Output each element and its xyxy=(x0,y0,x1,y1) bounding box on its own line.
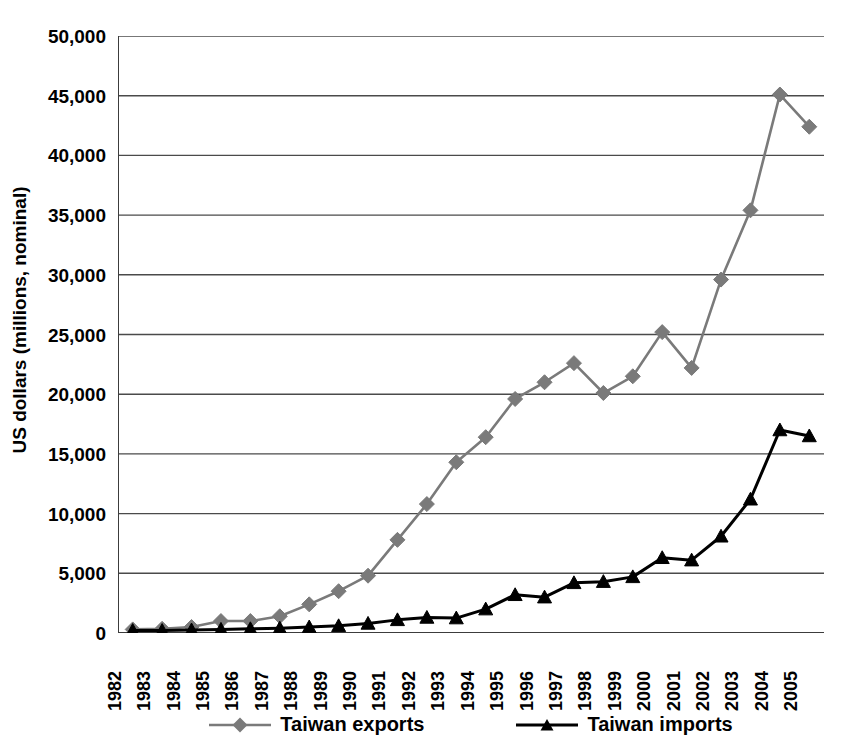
y-axis-tick-label: 10,000 xyxy=(28,504,106,523)
data-series-layer xyxy=(125,87,817,633)
x-axis-tick-label: 1995 xyxy=(488,641,506,711)
y-axis-tick-label: 35,000 xyxy=(28,206,106,225)
data-point-marker xyxy=(537,375,552,390)
x-axis-tick-label: 1994 xyxy=(459,641,477,711)
chart-figure: US dollars (millions, nominal) 05,00010,… xyxy=(0,0,846,743)
x-axis-tick-label: 1998 xyxy=(576,641,594,711)
x-axis-tick-label: 1984 xyxy=(165,641,183,711)
legend-item-2[interactable]: Taiwan imports xyxy=(516,713,732,736)
x-axis-tick-label: 1988 xyxy=(282,641,300,711)
y-axis-tick-label: 20,000 xyxy=(28,385,106,404)
x-axis-tick-label: 1991 xyxy=(370,641,388,711)
data-point-marker xyxy=(773,423,787,436)
x-axis-tick-label: 2001 xyxy=(665,641,683,711)
y-axis-tick-label: 50,000 xyxy=(28,27,106,46)
x-axis-tick-label: 1983 xyxy=(135,641,153,711)
data-point-marker xyxy=(625,369,640,384)
y-axis-tick-label: 15,000 xyxy=(28,444,106,463)
legend-triangle-marker-icon xyxy=(516,715,578,735)
y-axis-tick-label: 25,000 xyxy=(28,325,106,344)
data-point-marker xyxy=(479,602,493,615)
y-axis-tick-label: 30,000 xyxy=(28,265,106,284)
plot-area xyxy=(118,36,824,633)
x-axis-tick-label: 2004 xyxy=(753,641,771,711)
y-axis-tick-label: 5,000 xyxy=(28,564,106,583)
x-axis-tick-label: 1992 xyxy=(400,641,418,711)
x-axis-tick-label: 1993 xyxy=(429,641,447,711)
gridlines xyxy=(118,36,824,633)
data-point-marker xyxy=(743,492,757,505)
legend-item-1[interactable]: Taiwan exports xyxy=(209,713,424,736)
plot-svg xyxy=(118,36,824,633)
y-axis-tick-label: 45,000 xyxy=(28,86,106,105)
legend-label: Taiwan imports xyxy=(587,713,732,736)
x-axis-tick-label: 1989 xyxy=(312,641,330,711)
x-axis-tick-label: 1986 xyxy=(223,641,241,711)
chart-legend: Taiwan exportsTaiwan imports xyxy=(118,706,824,743)
x-axis-tick-labels: 1982198319841985198619871988198919901991… xyxy=(118,641,824,711)
data-point-marker xyxy=(302,597,317,612)
x-axis-tick-label: 2005 xyxy=(782,641,800,711)
x-axis-tick-label: 1985 xyxy=(194,641,212,711)
y-axis-tick-label: 40,000 xyxy=(28,146,106,165)
x-axis-tick-label: 2003 xyxy=(723,641,741,711)
x-axis-tick-label: 2002 xyxy=(694,641,712,711)
x-axis-tick-label: 1987 xyxy=(253,641,271,711)
x-axis-tick-label: 1990 xyxy=(341,641,359,711)
legend-label: Taiwan exports xyxy=(280,713,424,736)
series-line xyxy=(133,430,810,631)
x-axis-tick-label: 2000 xyxy=(635,641,653,711)
x-axis-tick-label: 1999 xyxy=(606,641,624,711)
x-axis-tick-label: 1997 xyxy=(547,641,565,711)
series-line xyxy=(133,95,810,630)
x-axis-tick-label: 1982 xyxy=(106,641,124,711)
x-axis-tick-label: 1996 xyxy=(518,641,536,711)
y-axis-tick-label: 0 xyxy=(28,624,106,643)
data-point-marker xyxy=(331,584,346,599)
y-axis-tick-labels: 05,00010,00015,00020,00025,00030,00035,0… xyxy=(22,0,106,743)
legend-diamond-marker-icon xyxy=(209,715,271,735)
series-1 xyxy=(125,87,817,633)
